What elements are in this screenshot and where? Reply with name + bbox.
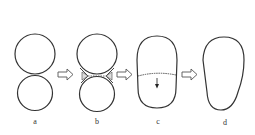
stage-b-label: b — [95, 117, 99, 126]
stage-c-dashed-interface — [138, 73, 176, 76]
neck-fillet-right — [106, 68, 114, 83]
stage-d-outline — [203, 37, 244, 110]
arrow-down-icon — [155, 78, 159, 89]
stage-d-label: d — [223, 118, 227, 127]
arrow-right-icon — [58, 69, 73, 80]
stage-b-bottom-circle — [80, 77, 115, 112]
stage-a: a — [15, 34, 55, 126]
stage-b-top-circle — [77, 34, 117, 74]
stage-a-top-circle — [15, 34, 55, 74]
stage-a-bottom-circle — [18, 76, 53, 111]
stage-c: c — [137, 36, 177, 126]
stage-c-label: c — [156, 117, 160, 126]
arrow-right-icon — [182, 69, 197, 80]
sintering-diagram: a b c d — [0, 0, 255, 135]
stage-b: b — [77, 34, 117, 126]
stage-a-label: a — [33, 117, 37, 126]
neck-fillet-left — [80, 68, 88, 83]
stage-c-outline — [137, 36, 177, 108]
arrow-right-icon — [117, 69, 132, 80]
stage-d: d — [203, 37, 244, 127]
